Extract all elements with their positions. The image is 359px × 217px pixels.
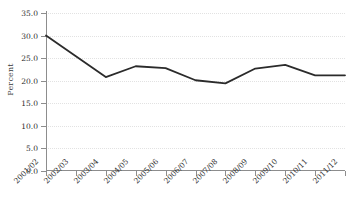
data-series-line [46, 13, 345, 171]
y-axis-tick-label: 35.0 [21, 9, 38, 18]
y-axis-tick-label: 25.0 [21, 54, 38, 63]
y-axis-tick-label: 5.0 [26, 144, 38, 153]
plot-area: 0.05.010.015.020.025.030.035.0 2001/0220… [46, 13, 345, 171]
y-axis-tick-label: 15.0 [21, 99, 38, 108]
y-axis-title: Percent [6, 49, 15, 111]
y-axis-tick-label: 30.0 [21, 31, 38, 40]
line-chart: Percent 0.05.010.015.020.025.030.035.0 2… [0, 0, 359, 217]
y-axis-tick-label: 10.0 [21, 121, 38, 130]
series-line-percent [46, 36, 345, 84]
x-axis-tick [345, 171, 346, 176]
y-axis-tick-label: 20.0 [21, 76, 38, 85]
